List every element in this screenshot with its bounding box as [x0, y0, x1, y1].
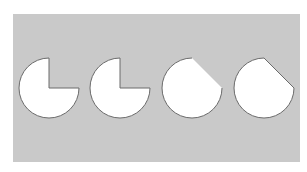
figure-canvas: [0, 0, 307, 172]
